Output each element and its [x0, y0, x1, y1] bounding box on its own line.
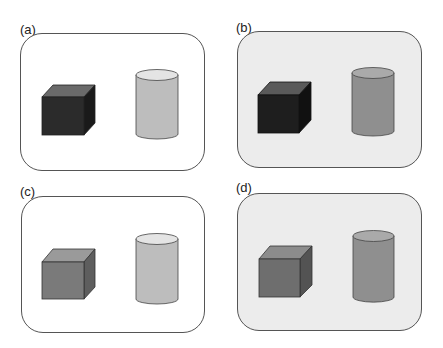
cylinder-a — [136, 70, 178, 140]
cylinder-d — [353, 231, 394, 303]
cube-d — [259, 246, 312, 297]
cube-b — [258, 82, 311, 133]
cylinder-c — [136, 234, 178, 305]
shapes-layer — [0, 0, 443, 348]
cylinder-b — [352, 68, 394, 137]
cube-c — [42, 249, 95, 299]
cube-a — [42, 85, 95, 135]
